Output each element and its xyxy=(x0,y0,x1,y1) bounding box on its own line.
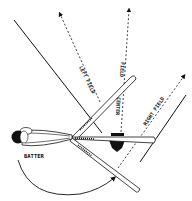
bat-upper xyxy=(72,76,136,140)
batter-label: BATTER xyxy=(24,153,45,159)
center-field-label-2: FIELD xyxy=(119,62,126,77)
diagram-canvas: BATTER LEFT FIELD CENTER FIELD RIGHT FIE… xyxy=(0,0,192,201)
home-plate-icon xyxy=(109,133,125,152)
swing-arc-arrow xyxy=(18,160,114,195)
right-field-label: RIGHT FIELD xyxy=(142,96,165,127)
batter-figure xyxy=(12,128,73,146)
right-field-arrow xyxy=(118,76,184,168)
left-field-label: LEFT FIELD xyxy=(78,65,97,95)
